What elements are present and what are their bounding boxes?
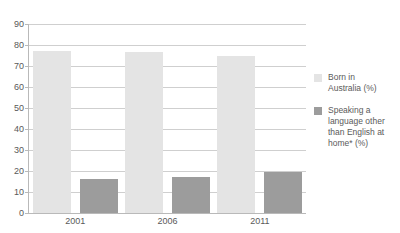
legend-swatch — [314, 107, 322, 115]
x-tick-label: 2001 — [33, 216, 118, 227]
y-tick-mark — [25, 213, 29, 214]
bar[interactable] — [125, 52, 163, 213]
y-tick-label: 30 — [0, 146, 24, 155]
legend-swatch — [314, 74, 322, 82]
plot-area — [28, 24, 306, 214]
y-tick-label: 40 — [0, 125, 24, 134]
legend-item[interactable]: Speaking alanguage otherthan English ath… — [314, 105, 400, 149]
y-tick-label: 60 — [0, 83, 24, 92]
x-tick-label: 2006 — [125, 216, 210, 227]
legend-item[interactable]: Born inAustralia (%) — [314, 72, 400, 94]
bar-group — [217, 24, 302, 213]
bar-groups — [29, 24, 306, 213]
bar[interactable] — [33, 51, 71, 213]
y-tick-label: 10 — [0, 188, 24, 197]
y-tick-label: 80 — [0, 41, 24, 50]
legend-label: Speaking alanguage otherthan English ath… — [328, 105, 385, 149]
bar[interactable] — [80, 179, 118, 213]
bar-group — [125, 24, 210, 213]
y-tick-label: 50 — [0, 104, 24, 113]
y-tick-label: 90 — [0, 20, 24, 29]
plot-wrapper: 0102030405060708090 200120062011 — [0, 0, 310, 233]
bar-group — [33, 24, 118, 213]
bar[interactable] — [172, 177, 210, 213]
y-tick-label: 20 — [0, 167, 24, 176]
legend: Born inAustralia (%)Speaking alanguage o… — [314, 72, 400, 160]
bar[interactable] — [217, 56, 255, 214]
legend-label: Born inAustralia (%) — [328, 72, 377, 94]
y-tick-label: 70 — [0, 62, 24, 71]
y-axis: 0102030405060708090 — [0, 0, 24, 233]
bar[interactable] — [264, 172, 302, 213]
bar-chart: 0102030405060708090 200120062011 Born in… — [0, 0, 400, 233]
x-axis: 200120062011 — [29, 216, 306, 227]
x-tick-label: 2011 — [217, 216, 302, 227]
y-tick-label: 0 — [0, 209, 24, 218]
